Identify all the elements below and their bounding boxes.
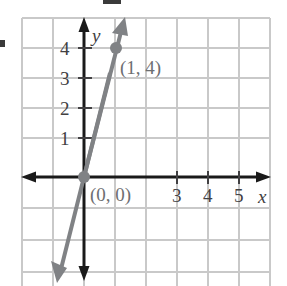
coordinate-plane [0, 0, 287, 286]
y-axis [79, 17, 90, 281]
graph-figure: 4 3 2 1 3 4 5 x y (0, 0) (1, 4) [0, 0, 287, 286]
origin-point-label: (0, 0) [90, 185, 131, 204]
y-axis-arrow-down [79, 266, 90, 281]
x-tick-label-3: 3 [172, 186, 182, 205]
x-axis-arrow-left [21, 172, 36, 183]
y-tick-label-3: 3 [60, 69, 70, 88]
y-tick-label-4: 4 [60, 39, 70, 58]
point-1-4-marker [110, 42, 122, 54]
x-axis-arrow-right [256, 172, 271, 183]
y-tick-label-1: 1 [60, 129, 70, 148]
y-tick-label-2: 2 [60, 99, 70, 118]
x-tick-label-4: 4 [203, 186, 213, 205]
y-axis-arrow-up [79, 17, 90, 32]
point-1-4-label: (1, 4) [120, 58, 161, 77]
x-axis-label: x [258, 187, 266, 206]
point-origin-marker [78, 171, 90, 183]
y-axis-label: y [92, 26, 100, 45]
x-tick-label-5: 5 [234, 186, 244, 205]
